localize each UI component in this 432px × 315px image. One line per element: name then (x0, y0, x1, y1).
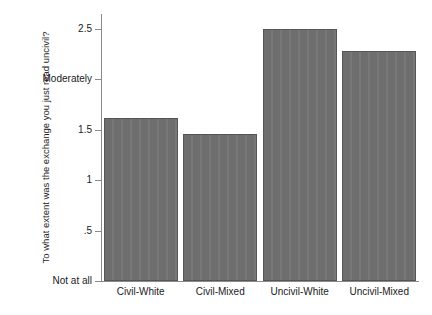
y-axis-tick-label: 1.5 (78, 125, 92, 135)
y-axis-title-text: To what extent was the exchange you just… (40, 14, 52, 281)
bar (263, 29, 337, 281)
bar-texture (343, 52, 415, 280)
bar-texture (264, 30, 336, 280)
bar (342, 51, 416, 281)
y-axis-tick-label: 2.5 (78, 24, 92, 34)
plot-area (101, 14, 419, 281)
x-axis-tick-label: Uncivil-Mixed (340, 286, 420, 298)
x-axis-tick-label: Civil-White (101, 286, 181, 298)
x-axis-tick-label: Civil-Mixed (181, 286, 261, 298)
chart-figure: To what extent was the exchange you just… (0, 0, 432, 315)
bar (104, 118, 178, 281)
bar-texture (105, 119, 177, 280)
y-axis-tick-label: Moderately (43, 74, 92, 84)
bar (183, 134, 257, 281)
x-axis-tick-label: Uncivil-White (260, 286, 340, 298)
y-axis-title: To what extent was the exchange you just… (30, 14, 62, 281)
bar-texture (184, 135, 256, 280)
y-axis-tick-label: .5 (84, 226, 92, 236)
y-axis-tick-label: 1 (86, 175, 92, 185)
y-axis-tick-label: Not at all (53, 276, 92, 286)
y-axis-tick (95, 281, 101, 282)
x-axis-line (101, 281, 419, 282)
